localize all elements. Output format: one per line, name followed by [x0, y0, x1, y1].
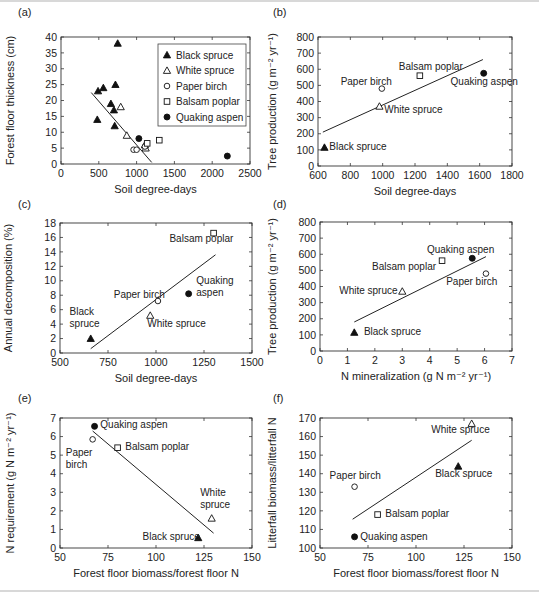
y-tick-label: 170 — [298, 412, 316, 424]
panel-d: (d)012345670100200300400500600700800N mi… — [266, 198, 515, 382]
y-tick-label: 18 — [44, 217, 56, 229]
point-annotation: Black — [70, 306, 95, 317]
balsam-poplar-marker — [439, 258, 445, 264]
y-tick-label: 4 — [50, 318, 56, 330]
point-annotation: Balsam poplar — [399, 61, 464, 72]
x-tick-label: 1500 — [240, 356, 264, 368]
y-tick-label: 130 — [298, 486, 316, 498]
y-tick-label: 10 — [45, 126, 57, 138]
quaking-aspen-marker — [136, 136, 142, 142]
y-tick-label: 600 — [298, 248, 316, 260]
white-spruce-marker — [208, 515, 215, 521]
quaking-aspen-marker — [481, 70, 487, 76]
y-axis-label: Litterfall biomass/litterfall N — [266, 417, 278, 548]
balsam-poplar-marker — [164, 99, 170, 105]
panel-label: (b) — [273, 6, 286, 18]
x-tick-label: 125 — [455, 551, 473, 563]
point-annotation: Black spruce — [435, 468, 493, 479]
point-annotation: Quaking — [196, 275, 233, 286]
legend-entry: Paper birch — [176, 81, 227, 92]
point-annotation: White spruce — [147, 318, 206, 329]
x-tick-label: 1200 — [403, 169, 427, 181]
y-tick-label: 0 — [51, 158, 57, 170]
y-tick-label: 800 — [296, 31, 314, 43]
x-tick-label: 1500 — [163, 167, 187, 179]
point-annotation: Paper birch — [341, 76, 392, 87]
figure-canvas: (a)050010001500200025000510152025303540S… — [0, 0, 539, 592]
point-annotation: Balsam poplar — [372, 261, 437, 272]
white-spruce-marker — [399, 288, 406, 294]
quaking-aspen-marker — [186, 291, 192, 297]
y-tick-label: 200 — [298, 312, 316, 324]
point-annotation: Paper birch — [446, 276, 497, 287]
panel-b: (b)6008001000120014001600180001002003004… — [266, 6, 524, 197]
y-tick-label: 0 — [308, 160, 314, 172]
x-tick-label: 1250 — [192, 356, 216, 368]
x-tick-label: 3 — [399, 354, 405, 366]
quaking-aspen-marker — [164, 114, 170, 120]
point-annotation: birch — [66, 459, 88, 470]
y-tick-label: 100 — [298, 329, 316, 341]
point-annotation: Balsam poplar — [125, 441, 190, 452]
point-annotation: Balsam poplar — [169, 233, 234, 244]
y-tick-label: 2 — [50, 505, 56, 517]
paper-birch-marker — [379, 86, 385, 92]
y-tick-label: 5 — [50, 449, 56, 461]
point-annotation: Black spruce — [329, 141, 387, 152]
y-tick-label: 160 — [298, 430, 316, 442]
y-tick-label: 500 — [296, 79, 314, 91]
black-spruce-marker — [110, 106, 117, 112]
point-annotation: Paper — [66, 447, 93, 458]
panel-label: (e) — [18, 392, 31, 404]
x-tick-label: 5 — [454, 354, 460, 366]
y-tick-label: 1 — [50, 523, 56, 535]
point-annotation: Paper birch — [114, 289, 165, 300]
quaking-aspen-marker — [469, 255, 475, 261]
black-spruce-marker — [114, 40, 121, 46]
x-tick-label: 125 — [195, 551, 213, 563]
y-tick-label: 6 — [50, 303, 56, 315]
x-axis-label: N mineralization (g N m⁻² yr⁻¹) — [341, 370, 491, 382]
y-axis-label: Annual decomposition (%) — [2, 224, 14, 352]
y-tick-label: 4 — [50, 467, 56, 479]
y-tick-label: 600 — [296, 63, 314, 75]
x-tick-label: 75 — [102, 551, 114, 563]
y-tick-label: 40 — [45, 31, 57, 43]
black-spruce-marker — [94, 116, 101, 122]
y-tick-label: 500 — [298, 264, 316, 276]
y-tick-label: 100 — [298, 542, 316, 554]
x-tick-label: 75 — [362, 551, 374, 563]
y-tick-label: 3 — [50, 486, 56, 498]
y-tick-label: 30 — [45, 62, 57, 74]
x-tick-label: 1000 — [125, 167, 149, 179]
point-annotation: Black spruce — [364, 326, 422, 337]
y-tick-label: 2 — [50, 332, 56, 344]
x-tick-label: 4 — [427, 354, 433, 366]
paper-birch-marker — [90, 437, 96, 443]
x-axis-label: Soil degree-days — [114, 183, 197, 195]
y-axis-label: Forest floor thickness (cm) — [4, 36, 16, 166]
paper-birch-marker — [134, 147, 140, 153]
y-tick-label: 110 — [299, 523, 316, 535]
y-tick-label: 6 — [50, 430, 56, 442]
x-tick-label: 2 — [372, 354, 378, 366]
paper-birch-marker — [352, 484, 358, 490]
x-tick-label: 100 — [147, 551, 165, 563]
x-tick-label: 2000 — [201, 167, 225, 179]
y-tick-label: 0 — [50, 347, 56, 359]
point-annotation: Black spruce — [143, 531, 201, 542]
panel-a: (a)050010001500200025000510152025303540S… — [4, 6, 262, 195]
point-annotation: Balsam poplar — [385, 508, 450, 519]
y-tick-label: 800 — [298, 216, 316, 228]
y-tick-label: 7 — [50, 412, 56, 424]
quaking-aspen-marker — [224, 153, 230, 159]
y-tick-label: 15 — [45, 110, 57, 122]
y-tick-label: 25 — [45, 78, 57, 90]
point-annotation: Quaking aspen — [100, 419, 167, 430]
y-tick-label: 35 — [45, 47, 57, 59]
x-tick-label: 150 — [243, 551, 261, 563]
y-tick-label: 140 — [298, 467, 316, 479]
x-tick-label: 1000 — [144, 356, 168, 368]
x-axis-label: Soil degree-days — [374, 185, 457, 197]
x-tick-label: 100 — [407, 551, 425, 563]
